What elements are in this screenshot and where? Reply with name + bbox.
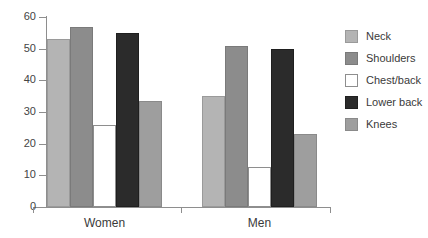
y-tick-label-40: 40 bbox=[2, 74, 36, 85]
legend-swatch-icon bbox=[345, 96, 358, 109]
group-label-men: Men bbox=[202, 216, 317, 230]
y-tick-20 bbox=[39, 144, 46, 145]
legend-swatch-icon bbox=[345, 52, 358, 65]
bar-women-lower-back bbox=[116, 33, 139, 207]
y-tick-10 bbox=[39, 175, 46, 176]
y-tick-40 bbox=[39, 80, 46, 81]
caption-clipped bbox=[4, 232, 424, 238]
legend-swatch-icon bbox=[345, 74, 358, 87]
bar-men-chest-back bbox=[248, 167, 271, 207]
x-tick-middle bbox=[181, 207, 182, 213]
bar-men-shoulders bbox=[225, 46, 248, 208]
legend-item-label: Chest/back bbox=[366, 74, 421, 86]
legend-item-knees[interactable]: Knees bbox=[345, 114, 422, 134]
legend-item-label: Neck bbox=[366, 30, 391, 42]
bar-women-knees bbox=[139, 101, 162, 207]
y-tick-label-30: 30 bbox=[2, 106, 36, 117]
x-tick-right bbox=[330, 207, 331, 213]
plot-area bbox=[47, 17, 330, 207]
y-tick-label-50: 50 bbox=[2, 43, 36, 54]
bar-men-neck bbox=[202, 96, 225, 207]
y-tick-label-10: 10 bbox=[2, 169, 36, 180]
bar-men-knees bbox=[294, 134, 317, 207]
y-tick-30 bbox=[39, 112, 46, 113]
legend-item-label: Knees bbox=[366, 118, 397, 130]
y-tick-label-20: 20 bbox=[2, 138, 36, 149]
legend-item-neck[interactable]: Neck bbox=[345, 26, 422, 46]
legend-item-label: Lower back bbox=[366, 96, 422, 108]
y-tick-60 bbox=[39, 17, 46, 18]
y-tick-50 bbox=[39, 49, 46, 50]
x-tick-left bbox=[33, 207, 34, 213]
legend-swatch-icon bbox=[345, 30, 358, 43]
legend-swatch-icon bbox=[345, 118, 358, 131]
bar-women-neck bbox=[47, 39, 70, 207]
legend-item-lower-back[interactable]: Lower back bbox=[345, 92, 422, 112]
group-label-women: Women bbox=[47, 216, 162, 230]
y-tick-0 bbox=[39, 207, 46, 208]
legend-item-chest-back[interactable]: Chest/back bbox=[345, 70, 422, 90]
bar-women-chest-back bbox=[93, 125, 116, 207]
legend: NeckShouldersChest/backLower backKnees bbox=[345, 26, 422, 136]
bar-chart: 0102030405060 WomenMen NeckShouldersChes… bbox=[0, 0, 428, 238]
y-tick-label-0: 0 bbox=[2, 201, 36, 212]
bar-women-shoulders bbox=[70, 27, 93, 208]
legend-item-label: Shoulders bbox=[366, 52, 416, 64]
bar-men-lower-back bbox=[271, 49, 294, 207]
y-tick-label-60: 60 bbox=[2, 11, 36, 22]
legend-item-shoulders[interactable]: Shoulders bbox=[345, 48, 422, 68]
